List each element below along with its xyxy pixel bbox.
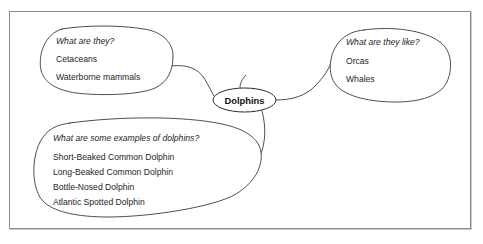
concept-map-page: What are they? Cetaceans Waterborne mamm…	[0, 0, 483, 244]
center-node-dolphins[interactable]: Dolphins	[213, 88, 276, 112]
bubble-what-are-they-like[interactable]: What are they like? Orcas Whales	[330, 29, 450, 103]
bubble-examples-item-0: Short-Beaked Common Dolphin	[53, 152, 175, 162]
bubble-examples-item-1: Long-Beaked Common Dolphin	[53, 167, 173, 177]
bubble-what-are-they[interactable]: What are they? Cetaceans Waterborne mamm…	[40, 26, 173, 95]
bubble-what-are-they-item-0: Cetaceans	[56, 54, 97, 64]
bubble-examples-question: What are some examples of dolphins?	[53, 133, 199, 143]
connector-dolphins-to-whataretheylike	[276, 63, 331, 100]
concept-map-canvas: What are they? Cetaceans Waterborne mamm…	[0, 0, 483, 244]
connector-stem-top	[240, 75, 246, 88]
bubble-examples-item-2: Bottle-Nosed Dolphin	[53, 182, 134, 192]
bubble-examples-item-3: Atlantic Spotted Dolphin	[53, 197, 145, 207]
bubble-what-are-they-like-item-1: Whales	[346, 74, 375, 84]
center-node-label: Dolphins	[224, 95, 264, 106]
bubble-what-are-they-question: What are they?	[56, 36, 114, 46]
bubble-what-are-they-like-item-0: Orcas	[346, 56, 369, 66]
bubble-what-are-they-like-question: What are they like?	[346, 37, 420, 47]
bubble-what-are-they-item-1: Waterborne mammals	[56, 72, 140, 82]
bubble-examples[interactable]: What are some examples of dolphins? Shor…	[34, 118, 261, 217]
connector-whatarethey-to-dolphins	[171, 66, 214, 96]
